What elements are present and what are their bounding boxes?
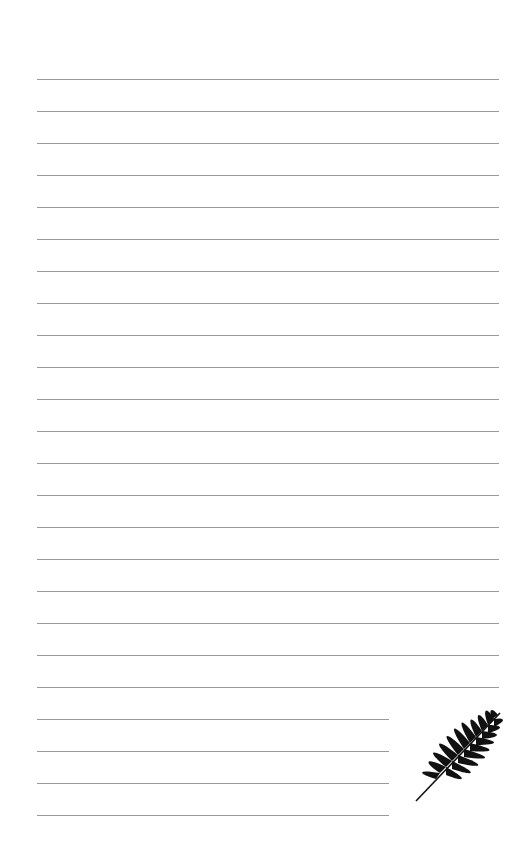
ruled-line: [37, 79, 499, 80]
ruled-line: [37, 559, 499, 560]
ruled-line: [37, 495, 499, 496]
ruled-line: [37, 303, 499, 304]
ruled-line: [37, 239, 499, 240]
ruled-line: [37, 175, 499, 176]
ruled-line: [37, 623, 499, 624]
ruled-line: [37, 399, 499, 400]
ruled-line: [37, 815, 389, 816]
ruled-line: [37, 783, 389, 784]
ruled-line: [37, 527, 499, 528]
ruled-line: [37, 111, 499, 112]
palm-leaf-icon: [408, 705, 508, 805]
ruled-line: [37, 367, 499, 368]
ruled-line: [37, 591, 499, 592]
ruled-line: [37, 271, 499, 272]
ruled-line: [37, 687, 499, 688]
ruled-line: [37, 719, 389, 720]
ruled-line: [37, 655, 499, 656]
ruled-line: [37, 207, 499, 208]
ruled-line: [37, 751, 389, 752]
ruled-line: [37, 143, 499, 144]
ruled-line: [37, 463, 499, 464]
ruled-line: [37, 431, 499, 432]
ruled-line: [37, 335, 499, 336]
